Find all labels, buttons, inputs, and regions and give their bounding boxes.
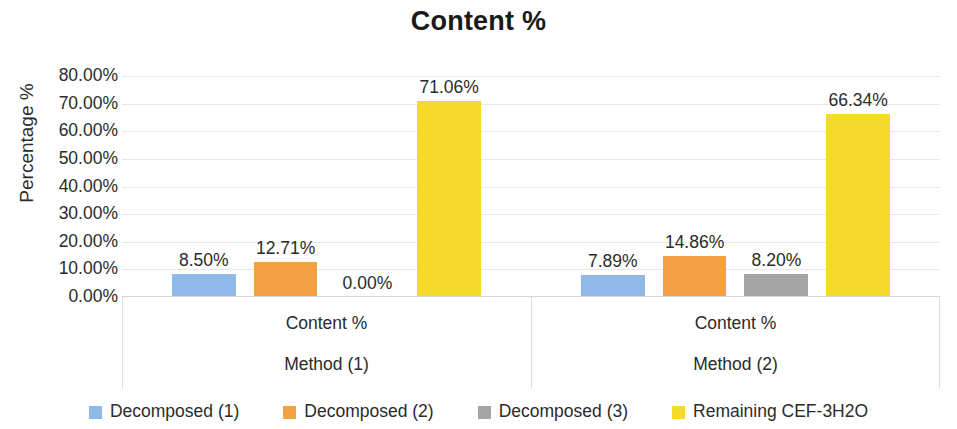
category-axis-divider — [939, 297, 940, 389]
bar-chart: Content % Percentage % 80.00%70.00%60.00… — [0, 0, 957, 429]
gridline — [122, 187, 940, 188]
category-sublabel: Content % — [531, 313, 940, 334]
bar-value-label: 7.89% — [547, 253, 678, 271]
bar-value-label: 12.71% — [220, 240, 351, 258]
gridline — [122, 76, 940, 77]
bar-value-label: 71.06% — [384, 79, 515, 97]
bar-value-label: 0.00% — [302, 275, 433, 293]
y-axis-tick-labels: 80.00%70.00%60.00%50.00%40.00%30.00%20.0… — [14, 0, 118, 429]
y-axis-tick-label: 30.00% — [18, 205, 118, 223]
y-axis-tick-label: 10.00% — [18, 260, 118, 278]
legend-item[interactable]: Remaining CEF-3H2O — [672, 403, 868, 421]
y-axis-tick-label: 60.00% — [18, 122, 118, 140]
bar — [417, 101, 481, 297]
category-axis-divider — [531, 297, 532, 389]
category-axis: Content %Method (1)Content %Method (2) — [122, 297, 940, 389]
y-axis-tick-label: 40.00% — [18, 178, 118, 196]
legend-label: Remaining CEF-3H2O — [693, 403, 868, 421]
y-axis-tick-label: 20.00% — [18, 233, 118, 251]
legend-label: Decomposed (2) — [304, 403, 433, 421]
chart-title: Content % — [0, 6, 957, 37]
category-label: Method (1) — [122, 354, 531, 375]
legend-item[interactable]: Decomposed (1) — [89, 403, 239, 421]
bar — [826, 114, 890, 297]
y-axis-tick-label: 70.00% — [18, 95, 118, 113]
y-axis-tick-label: 0.00% — [18, 288, 118, 306]
gridline — [122, 214, 940, 215]
legend-swatch-icon — [672, 406, 685, 419]
bar — [581, 275, 645, 297]
gridline — [122, 131, 940, 132]
category-axis-divider — [122, 297, 123, 389]
legend-label: Decomposed (1) — [110, 403, 239, 421]
legend-swatch-icon — [89, 406, 102, 419]
plot-area: 8.50%12.71%0.00%71.06%7.89%14.86%8.20%66… — [122, 76, 940, 297]
legend-label: Decomposed (3) — [499, 403, 628, 421]
category-label: Method (2) — [531, 354, 940, 375]
y-axis-tick-label: 80.00% — [18, 67, 118, 85]
bar-value-label: 14.86% — [629, 234, 760, 252]
bar — [172, 274, 236, 297]
legend-item[interactable]: Decomposed (3) — [478, 403, 628, 421]
legend-item[interactable]: Decomposed (2) — [283, 403, 433, 421]
y-axis-tick-label: 50.00% — [18, 150, 118, 168]
chart-legend: Decomposed (1)Decomposed (2)Decomposed (… — [0, 398, 957, 426]
bar-value-label: 8.20% — [711, 252, 842, 270]
legend-swatch-icon — [283, 406, 296, 419]
gridline — [122, 159, 940, 160]
bar — [744, 274, 808, 297]
bar-value-label: 66.34% — [793, 92, 924, 110]
category-sublabel: Content % — [122, 313, 531, 334]
legend-swatch-icon — [478, 406, 491, 419]
